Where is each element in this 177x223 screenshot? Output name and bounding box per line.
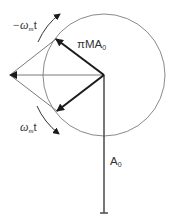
pos-rotation-label: ωmt bbox=[20, 120, 37, 135]
lower-construction-line bbox=[10, 75, 57, 111]
pos-rotation-omega: ω bbox=[20, 120, 28, 134]
sideband-amplitude-main: πMA bbox=[77, 38, 103, 50]
carrier-amplitude-sub: 0 bbox=[118, 161, 122, 168]
sideband-amplitude-sub: 0 bbox=[102, 44, 106, 51]
neg-rotation-label: −ωmt bbox=[12, 18, 37, 33]
pos-rotation-t: t bbox=[34, 121, 37, 133]
sideband-amplitude-label: πMA0 bbox=[77, 38, 106, 51]
neg-rotation-omega: −ω bbox=[12, 18, 29, 32]
counter-rotation-arrow-icon bbox=[38, 14, 60, 42]
carrier-amplitude-label: A0 bbox=[110, 155, 122, 168]
neg-rotation-t: t bbox=[34, 19, 37, 31]
lower-sideband-phasor bbox=[57, 75, 104, 111]
upper-construction-line bbox=[10, 39, 56, 75]
phasor-diagram: −ωmt ωmt πMA0 A0 bbox=[0, 0, 177, 223]
